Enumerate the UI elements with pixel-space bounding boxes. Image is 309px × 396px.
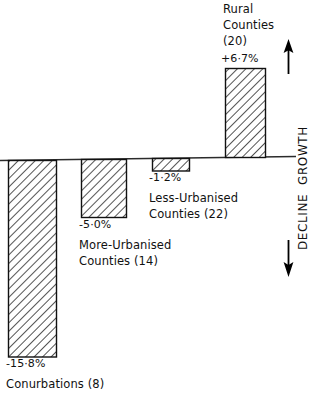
category-label-more-urbanised-line1: More-Urbanised	[79, 239, 171, 253]
bar-less-urbanised	[153, 159, 190, 172]
category-label-rural-line2: Counties	[223, 19, 274, 33]
down-arrow-icon	[284, 240, 294, 277]
value-label-less-urbanised: -1·2%	[149, 172, 181, 185]
category-label-less-urbanised-line2: Counties (22)	[149, 208, 228, 222]
bar-rural	[226, 69, 266, 158]
bar-chart: -15·8% Conurbations (8) -5·0% More-Urban…	[0, 0, 309, 396]
up-arrow-icon	[284, 39, 294, 74]
category-label-more-urbanised-line2: Counties (14)	[79, 255, 158, 269]
bar-conurbations	[9, 161, 57, 358]
value-label-more-urbanised: -5·0%	[79, 219, 111, 232]
bar-more-urbanised	[82, 160, 127, 218]
growth-axis-label: GROWTH	[296, 126, 309, 185]
category-label-less-urbanised-line1: Less-Urbanised	[149, 192, 238, 206]
category-label-rural-line1: Rural	[223, 3, 253, 17]
category-label-rural-line3: (20)	[223, 35, 247, 49]
value-label-rural: +6·7%	[221, 53, 259, 66]
category-label-conurbations: Conurbations (8)	[6, 378, 104, 392]
value-label-conurbations: -15·8%	[6, 358, 46, 371]
decline-axis-label: DECLINE	[296, 194, 309, 250]
